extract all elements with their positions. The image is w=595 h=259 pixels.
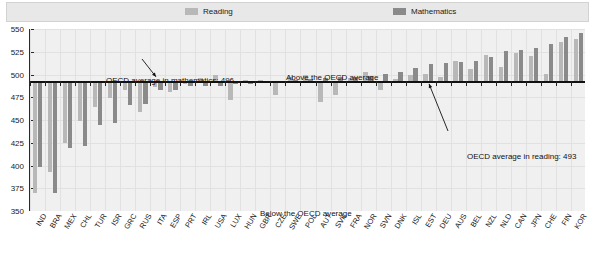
x-tick-label-hun: HUN [242, 212, 258, 231]
gridline-vertical [60, 29, 61, 211]
bar-mathematics-deu [444, 63, 449, 81]
bar-reading-cze [273, 81, 278, 95]
bar-reading-est [423, 74, 428, 81]
x-tick-label-tur: TUR [92, 212, 108, 230]
gridline-vertical [466, 29, 467, 211]
bar-reading-bra [48, 81, 53, 172]
gridline-horizontal [30, 143, 585, 144]
gridline-vertical [180, 29, 181, 211]
x-tick-label-dnk: DNK [393, 212, 409, 230]
x-tick-label-nzl: NZL [484, 212, 499, 229]
x-tick-mark [511, 81, 512, 86]
y-tick-label: 450 [11, 116, 24, 125]
gridline-vertical [511, 29, 512, 211]
x-tick-mark [406, 81, 407, 86]
gridline-vertical [165, 29, 166, 211]
chart-plot-inner [30, 29, 585, 211]
gridline-horizontal [30, 29, 585, 30]
annotation-above-average: Above the OECD average [286, 73, 379, 82]
bar-mathematics-bra [53, 81, 58, 193]
x-tick-mark [30, 81, 31, 86]
x-tick-mark [496, 81, 497, 86]
gridline-vertical [346, 29, 347, 211]
y-tick-label: 475 [11, 93, 24, 102]
bar-mathematics-nld [504, 51, 509, 81]
bar-reading-tur [93, 81, 98, 107]
gridline-vertical [436, 29, 437, 211]
gridline-vertical [376, 29, 377, 211]
bar-reading-nzl [484, 55, 489, 80]
bar-mathematics-isl [413, 68, 418, 81]
x-tick-label-est: EST [423, 212, 438, 229]
gridline-vertical [526, 29, 527, 211]
x-tick-mark [60, 81, 61, 86]
gridline-vertical [391, 29, 392, 211]
chart-plot-area: OECD average in mathematics: 496 Above t… [29, 29, 585, 211]
bar-mathematics-nzl [489, 57, 494, 81]
gridline-vertical [255, 29, 256, 211]
x-tick-mark [421, 81, 422, 86]
y-axis: 350375400425450475500525550 [0, 29, 27, 211]
gridline-vertical [481, 29, 482, 211]
bar-mathematics-dnk [398, 72, 403, 81]
chart-legend: Reading Mathematics [6, 2, 589, 22]
gridline-vertical [300, 29, 301, 211]
gridline-horizontal [30, 188, 585, 189]
bar-reading-che [544, 74, 549, 81]
y-tick-label: 525 [11, 47, 24, 56]
x-tick-label-isl: ISL [410, 212, 424, 226]
x-tick-label-kor: KOR [573, 212, 589, 231]
x-tick-mark [391, 81, 392, 86]
gridline-vertical [30, 29, 31, 211]
y-tick-label: 375 [11, 184, 24, 193]
x-tick-label-ind: IND [34, 212, 48, 228]
bar-mathematics-can [519, 50, 524, 81]
legend-swatch-mathematics [393, 8, 406, 15]
x-tick-mark [526, 81, 527, 86]
bar-reading-chl [78, 81, 83, 121]
bar-reading-mex [63, 81, 68, 143]
bar-mathematics-bel [474, 61, 479, 81]
x-tick-mark [270, 81, 271, 86]
bar-reading-ind [33, 81, 38, 193]
bar-mathematics-svn [383, 74, 388, 81]
x-tick-label-ita: ITA [155, 212, 169, 226]
bar-mathematics-tur [98, 81, 103, 125]
x-tick-mark [90, 81, 91, 86]
x-tick-label-svn: SVN [378, 212, 394, 230]
x-tick-label-prt: PRT [183, 212, 199, 229]
gridline-vertical [240, 29, 241, 211]
x-tick-mark [556, 81, 557, 86]
bar-mathematics-ind [38, 81, 43, 167]
bar-reading-aut [318, 81, 323, 102]
x-tick-label-chl: CHL [78, 212, 94, 230]
gridline-vertical [225, 29, 226, 211]
gridline-vertical [285, 29, 286, 211]
bar-reading-svk [333, 81, 338, 96]
x-tick-label-grc: GRC [122, 212, 138, 231]
bar-mathematics-chl [83, 81, 88, 147]
bar-mathematics-aus [459, 62, 464, 81]
bar-reading-kor [574, 39, 579, 81]
legend-label-mathematics: Mathematics [411, 7, 456, 16]
y-tick-label: 425 [11, 138, 24, 147]
x-tick-mark [466, 81, 467, 86]
bar-mathematics-jpn [534, 48, 539, 81]
annotation-math-average: OECD average in mathematics: 496 [106, 76, 234, 85]
x-tick-label-rus: RUS [137, 212, 153, 230]
bar-mathematics-est [429, 64, 434, 81]
x-tick-mark [451, 81, 452, 86]
gridline-vertical [135, 29, 136, 211]
gridline-vertical [150, 29, 151, 211]
bar-mathematics-isr [113, 81, 118, 123]
x-tick-label-nor: NOR [362, 212, 378, 231]
x-tick-label-esp: ESP [168, 212, 184, 230]
x-tick-mark [255, 81, 256, 86]
gridline-vertical [451, 29, 452, 211]
legend-swatch-reading [185, 8, 198, 15]
gridline-vertical [556, 29, 557, 211]
gridline-vertical [406, 29, 407, 211]
x-tick-mark [541, 81, 542, 86]
gridline-vertical [105, 29, 106, 211]
x-tick-mark [571, 81, 572, 86]
